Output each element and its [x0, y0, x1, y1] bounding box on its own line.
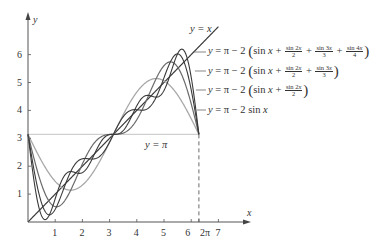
- curve-label-3-terms: y = π − 2 (sin x + sin 2x2 + sin 3x3): [208, 64, 339, 79]
- x-tick-label: 1: [52, 228, 57, 238]
- label-y-eq-pi: y = π: [145, 140, 167, 151]
- fourier-series-plot: [0, 0, 379, 241]
- x-tick-label: 6: [185, 228, 190, 238]
- y-tick-label: 6: [17, 50, 22, 60]
- curve-label-4-terms: y = π − 2 (sin x + sin 2x2 + sin 3x3 + s…: [208, 44, 369, 59]
- x-tick-label: 4: [134, 228, 139, 238]
- x-tick-label: 5: [161, 228, 166, 238]
- x-axis-arrow-icon: [243, 220, 251, 225]
- x-tick-label: 2π: [200, 228, 210, 238]
- y-tick-label: 4: [17, 105, 22, 115]
- curve-label-2-terms: y = π − 2 (sin x + sin 2x2): [208, 83, 308, 98]
- y-tick-label: 3: [17, 133, 22, 143]
- y-axis-label: y: [33, 15, 37, 25]
- line-y-eq-x: [28, 27, 218, 222]
- x-tick-label: 3: [107, 228, 112, 238]
- x-tick-label: 2: [79, 228, 84, 238]
- x-axis-label: x: [247, 208, 251, 218]
- x-tick-label: 7: [215, 228, 220, 238]
- label-y-eq-x: y = x: [190, 24, 212, 35]
- curve-label-1-term: y = π − 2 sin x: [208, 105, 268, 116]
- y-tick-label: 1: [17, 189, 22, 199]
- y-tick-label: 5: [17, 78, 22, 88]
- y-axis-arrow-icon: [26, 12, 31, 20]
- y-tick-label: 2: [17, 161, 22, 171]
